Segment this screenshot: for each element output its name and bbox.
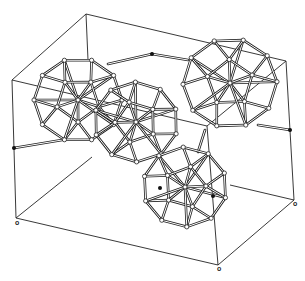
- atom-node: [128, 140, 132, 144]
- cell-edge: [230, 185, 294, 200]
- atom-node: [94, 133, 98, 137]
- atom-node: [157, 154, 161, 158]
- atom-node: [127, 100, 131, 104]
- atom-node: [212, 39, 216, 43]
- bridge-atom: [150, 52, 154, 56]
- atom-node: [142, 174, 146, 178]
- atom-node: [174, 107, 178, 111]
- atom-node: [89, 138, 93, 142]
- atom-node: [215, 100, 219, 104]
- atom-node: [76, 120, 80, 124]
- atom-node: [228, 81, 232, 85]
- axis-label-origin: o: [15, 219, 19, 226]
- atom-node: [151, 107, 155, 111]
- bridge-atom: [211, 194, 215, 198]
- axis-label-right: o: [293, 200, 297, 207]
- atom-node: [110, 153, 114, 157]
- atom-node: [89, 80, 93, 84]
- atom-node: [167, 198, 171, 202]
- atom-node: [265, 54, 269, 58]
- atom-node: [206, 152, 210, 156]
- atom-node: [205, 74, 209, 78]
- cell-edge: [86, 14, 286, 61]
- cell-edge: [86, 14, 88, 60]
- structure-diagram: o o o: [0, 0, 305, 281]
- atom-node: [244, 123, 248, 127]
- atom-node: [40, 122, 44, 126]
- atom-node: [185, 225, 189, 229]
- atom-node: [204, 184, 208, 188]
- atom-node: [209, 216, 213, 220]
- atom-node: [227, 57, 231, 61]
- atom-node: [215, 124, 219, 128]
- atom-node: [63, 80, 67, 84]
- atom-node: [250, 73, 254, 77]
- atom-node: [222, 171, 226, 175]
- unit-cell-figure: [0, 0, 305, 281]
- atom-node: [181, 82, 185, 86]
- atom-node: [223, 196, 227, 200]
- bridge-atom: [12, 146, 16, 150]
- atom-node: [188, 165, 192, 169]
- atom-node: [267, 106, 271, 110]
- atom-node: [144, 199, 148, 203]
- atom-node: [181, 145, 185, 149]
- atom-node: [40, 73, 44, 77]
- atom-node: [76, 98, 80, 102]
- bridge-atom: [158, 186, 162, 190]
- atom-node: [275, 80, 279, 84]
- atom-node: [165, 173, 169, 177]
- atom-node: [189, 56, 193, 60]
- bridge-atom: [288, 128, 292, 132]
- atom-node: [134, 120, 138, 124]
- atom-node: [111, 73, 115, 77]
- atom-node: [32, 98, 36, 102]
- axis-label-front: o: [217, 265, 221, 272]
- atom-node: [62, 138, 66, 142]
- cell-edge: [218, 200, 294, 265]
- atom-node: [160, 218, 164, 222]
- atom-node: [190, 205, 194, 209]
- atom-node: [55, 105, 59, 109]
- atom-node: [191, 108, 195, 112]
- atom-node: [62, 58, 66, 62]
- atom-node: [174, 132, 178, 136]
- atom-node: [134, 160, 138, 164]
- cell-edge: [16, 157, 92, 218]
- atom-node: [158, 87, 162, 91]
- atom-node: [89, 58, 93, 62]
- atom-node: [183, 185, 187, 189]
- atom-node: [241, 38, 245, 42]
- atom-node: [94, 108, 98, 112]
- atom-node: [151, 132, 155, 136]
- atom-node: [133, 80, 137, 84]
- atom-node: [242, 99, 246, 103]
- atom-node: [113, 120, 117, 124]
- atom-node: [109, 88, 113, 92]
